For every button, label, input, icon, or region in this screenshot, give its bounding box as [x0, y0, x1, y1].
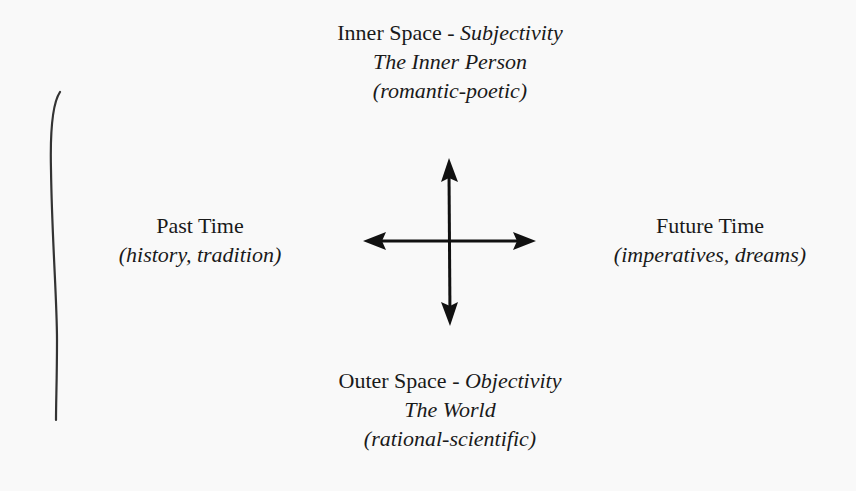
- romantic-poetic-text: (romantic-poetic): [250, 76, 650, 105]
- future-time-heading: Future Time: [580, 211, 840, 240]
- side-bracket-line: [51, 92, 60, 420]
- the-world-text: The World: [250, 395, 650, 424]
- inner-person-text: The Inner Person: [250, 47, 650, 76]
- inner-space-heading-text: Inner Space -: [337, 20, 460, 45]
- subjectivity-text: Subjectivity: [460, 20, 563, 45]
- four-way-arrow-icon: [363, 158, 536, 326]
- past-time-note: (history, tradition): [80, 240, 320, 269]
- outer-space-heading-text: Outer Space -: [339, 368, 465, 393]
- past-time-heading: Past Time: [80, 211, 320, 240]
- outer-space-heading: Outer Space - Objectivity: [250, 366, 650, 395]
- past-time-label: Past Time (history, tradition): [80, 211, 320, 269]
- rational-scientific-text: (rational-scientific): [250, 424, 650, 453]
- objectivity-text: Objectivity: [465, 368, 562, 393]
- inner-space-label: Inner Space - Subjectivity The Inner Per…: [250, 18, 650, 105]
- future-time-label: Future Time (imperatives, dreams): [580, 211, 840, 269]
- future-time-note: (imperatives, dreams): [580, 240, 840, 269]
- inner-space-heading: Inner Space - Subjectivity: [250, 18, 650, 47]
- outer-space-label: Outer Space - Objectivity The World (rat…: [250, 366, 650, 453]
